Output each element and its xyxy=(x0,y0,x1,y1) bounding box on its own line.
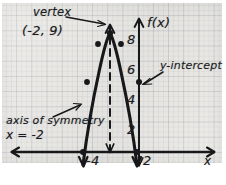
vertex-coordinates: (-2, 9) xyxy=(22,24,63,37)
y-tick-label-4: 4 xyxy=(127,93,135,106)
axis-of-symmetry-equation: x = -2 xyxy=(6,129,44,141)
y-intercept-label: y-intercept xyxy=(160,60,222,71)
point-right-1 xyxy=(118,41,124,47)
x-axis xyxy=(12,148,215,157)
x-axis-label: x xyxy=(204,155,211,167)
point-vertex xyxy=(107,30,113,36)
y-tick-label-6: 6 xyxy=(127,63,135,76)
point-left-2 xyxy=(84,79,90,85)
point-root-right xyxy=(134,149,140,155)
axis-of-symmetry-label: axis of symmetry xyxy=(6,115,105,126)
point-y-intercept xyxy=(136,79,142,85)
y-axis-label: f(x) xyxy=(147,16,170,29)
y-tick-label-8: 8 xyxy=(127,33,135,46)
vertex-label: vertex xyxy=(33,7,71,19)
x-tick-label-neg4: -4 xyxy=(86,154,99,167)
x-tick-label-2: 2 xyxy=(143,154,151,167)
point-left-1 xyxy=(95,41,101,47)
y-axis xyxy=(135,19,144,167)
y-tick-label-2: 2 xyxy=(127,123,135,136)
screenshot-root: vertex (-2, 9) f(x) y-intercept axis of … xyxy=(0,0,226,185)
